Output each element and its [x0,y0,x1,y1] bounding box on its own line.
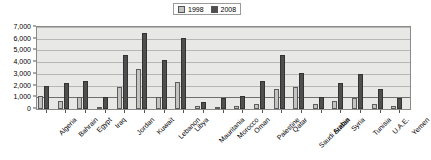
x-axis-tick-mark [321,110,322,113]
bar-group [371,27,391,109]
x-axis-tick-mark [399,110,400,113]
x-axis-tick-mark [46,110,47,113]
legend-swatch-2008 [211,6,218,13]
bar-group [116,27,136,109]
bar-1998 [58,101,63,109]
bar-2008 [162,60,167,109]
legend-item-2008: 2008 [211,6,237,13]
bar-2008 [338,83,343,109]
bar-2008 [142,33,147,109]
y-axis-tick-label: 2,000 [13,81,31,88]
bar-group [194,27,214,109]
bar-group [174,27,194,109]
x-axis-tick-label: U.A.E. [390,116,409,135]
bar-2008 [123,55,128,109]
x-axis-tick-mark [380,110,381,113]
bar-2008 [181,38,186,109]
bar-1998 [38,96,43,109]
bar-group [273,27,293,109]
bar-series-container [37,27,410,109]
bar-1998 [175,82,180,109]
bar-1998 [136,69,141,109]
legend-item-1998: 1998 [178,6,204,13]
bar-2008 [103,97,108,109]
x-axis-tick-label: Kuwait [155,116,175,136]
x-axis: AlgeriaBahrainEgyptIraqJordanKuwaitLeban… [36,112,411,160]
bar-2008 [260,81,265,109]
bar-2008 [201,102,206,109]
bar-2008 [319,97,324,109]
x-axis-tick-mark [223,110,224,113]
bar-1998 [215,107,220,109]
y-axis-tick-label: 1,000 [13,93,31,100]
y-axis: 01,0002,0003,0004,0005,0006,0007,000 [0,20,36,116]
bar-2008 [44,86,49,109]
bar-1998 [293,87,298,109]
bar-1998 [234,106,239,109]
bar-1998 [313,104,318,109]
bar-2008 [299,73,304,109]
bar-group [253,27,273,109]
bar-group [37,27,57,109]
y-axis-tick-label: 5,000 [13,46,31,53]
x-axis-tick-label: Algeria [57,116,77,136]
y-axis-tick-label: 0 [27,105,31,112]
bar-group [233,27,253,109]
x-axis-tick-mark [164,110,165,113]
bar-group [57,27,77,109]
bar-2008 [64,83,69,109]
x-axis-tick-label: Yemen [410,116,430,136]
bar-group [96,27,116,109]
y-axis-tick-label: 6,000 [13,34,31,41]
bar-1998 [117,87,122,109]
x-axis-tick-mark [65,110,66,113]
bar-1998 [352,98,357,109]
y-axis-tick-label: 3,000 [13,69,31,76]
bar-2008 [83,81,88,109]
x-axis-tick-mark [183,110,184,113]
chart-legend: 1998 2008 [173,3,241,15]
x-axis-tick-label: Jordan [136,116,156,136]
bar-group [390,27,410,109]
legend-swatch-1998 [178,6,185,13]
x-axis-tick-mark [360,110,361,113]
plot-area [36,26,411,110]
bar-group [135,27,155,109]
x-axis-tick-mark [105,110,106,113]
x-axis-tick-mark [144,110,145,113]
x-axis-tick-label: Egypt [95,116,113,134]
legend-label-2008: 2008 [221,6,237,13]
bar-1998 [156,97,161,109]
x-axis-tick-mark [242,110,243,113]
bar-1998 [195,106,200,110]
bar-group [351,27,371,109]
x-axis-tick-label: Tunisia [371,116,392,137]
bar-1998 [372,104,377,109]
x-axis-tick-mark [301,110,302,113]
bar-2008 [280,55,285,109]
y-axis-tick-label: 7,000 [13,23,31,30]
bar-1998 [391,106,396,109]
legend-label-1998: 1998 [188,6,204,13]
bar-1998 [254,104,259,109]
bar-group [331,27,351,109]
x-axis-tick-mark [281,110,282,113]
bar-2008 [378,89,383,109]
bar-2008 [221,98,226,109]
y-axis-tick-label: 4,000 [13,58,31,65]
x-axis-tick-mark [85,110,86,113]
x-axis-tick-mark [340,110,341,113]
bar-2008 [358,74,363,109]
bar-1998 [332,101,337,109]
bar-1998 [97,107,102,109]
bar-1998 [274,89,279,109]
bar-group [312,27,332,109]
bar-1998 [77,97,82,109]
x-axis-tick-mark [203,110,204,113]
x-axis-tick-label: Syria [350,116,366,132]
bar-group [292,27,312,109]
x-axis-tick-label: Iraq [113,116,126,129]
bar-group [214,27,234,109]
x-axis-tick-mark [262,110,263,113]
